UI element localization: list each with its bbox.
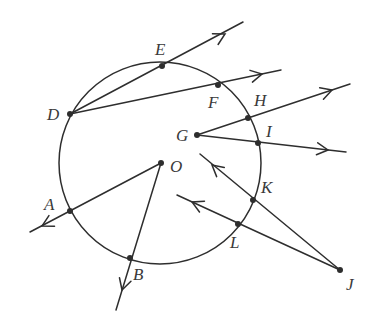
- label-J: J: [346, 275, 355, 294]
- label-G: G: [176, 126, 188, 145]
- label-A: A: [43, 195, 55, 214]
- point-K: [250, 197, 256, 203]
- label-L: L: [229, 233, 239, 252]
- ray-GH-line: [197, 84, 350, 135]
- point-I: [255, 140, 261, 146]
- point-L: [235, 221, 241, 227]
- geometry-diagram: EFDHGIOKALBJ: [0, 0, 377, 331]
- ray-JK-line: [200, 154, 340, 270]
- point-J: [337, 267, 343, 273]
- label-O: O: [170, 157, 182, 176]
- label-B: B: [133, 265, 144, 284]
- ray-JL: [177, 195, 340, 270]
- point-E: [159, 63, 165, 69]
- ray-JK: [200, 154, 340, 270]
- label-K: K: [260, 178, 274, 197]
- ray-DF-line: [70, 70, 281, 114]
- point-F: [215, 82, 221, 88]
- ray-OB: [116, 163, 161, 310]
- ray-DF: [70, 70, 281, 114]
- point-H: [245, 115, 251, 121]
- point-B: [127, 255, 133, 261]
- ray-OB-line: [116, 163, 161, 310]
- point-D: [67, 111, 73, 117]
- label-F: F: [207, 93, 219, 112]
- point-O: [158, 160, 164, 166]
- label-I: I: [265, 122, 273, 141]
- point-G: [194, 132, 200, 138]
- arrowhead-icon: [212, 165, 224, 177]
- label-D: D: [46, 105, 60, 124]
- label-H: H: [253, 91, 268, 110]
- point-A: [67, 208, 73, 214]
- ray-GH: [197, 84, 350, 135]
- label-E: E: [154, 40, 166, 59]
- ray-JL-line: [177, 195, 340, 270]
- diagram-canvas: EFDHGIOKALBJ: [0, 0, 377, 331]
